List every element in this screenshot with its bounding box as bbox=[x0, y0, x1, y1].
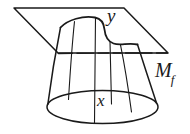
label-x: x bbox=[97, 92, 105, 109]
label-y: y bbox=[107, 6, 115, 25]
cone-generator-1 bbox=[69, 22, 75, 100]
cone-generator-2 bbox=[95, 18, 96, 123]
top-wavy-rim bbox=[61, 17, 138, 45]
label-mapping-cylinder: Mf bbox=[155, 60, 175, 84]
cone-left-edge bbox=[48, 28, 61, 105]
cone-generator-3 bbox=[110, 42, 112, 105]
plane-parallelogram bbox=[14, 8, 168, 53]
cone-generator-4 bbox=[121, 45, 132, 112]
mapping-cylinder-figure: y x Mf bbox=[0, 0, 190, 134]
label-mf-base: M bbox=[155, 59, 172, 81]
label-mf-subscript: f bbox=[171, 72, 175, 87]
